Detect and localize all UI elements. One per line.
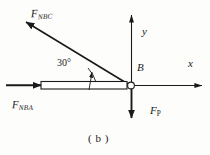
force-label-fnba: FNBA [12,99,33,111]
joint-b-pin [128,82,135,89]
free-body-diagram-figure: FNBC FNBA FP 30° B y x ( b ) [0,0,210,155]
point-b-text: B [137,61,144,73]
force-vector-fnbc [26,22,128,84]
member-ba-bar [41,82,127,90]
angle-arc [88,68,96,82]
force-symbol-fnbc: F [31,7,38,19]
force-label-fp: FP [150,105,161,116]
axis-label-x: x [188,58,193,69]
figure-caption: ( b ) [88,133,109,144]
force-symbol-fnba: F [12,98,19,110]
force-symbol-fp: F [150,104,157,116]
axis-y-text: y [142,25,147,37]
force-label-fnbc: FNBC [31,8,53,20]
force-subscript-fnbc: NBC [38,13,53,22]
angle-label: 30° [57,58,71,68]
axis-x-text: x [188,57,193,69]
force-subscript-fnba: NBA [19,104,33,112]
axis-label-y: y [142,26,147,37]
point-label-b: B [137,62,144,73]
force-subscript-fp: P [157,110,161,118]
